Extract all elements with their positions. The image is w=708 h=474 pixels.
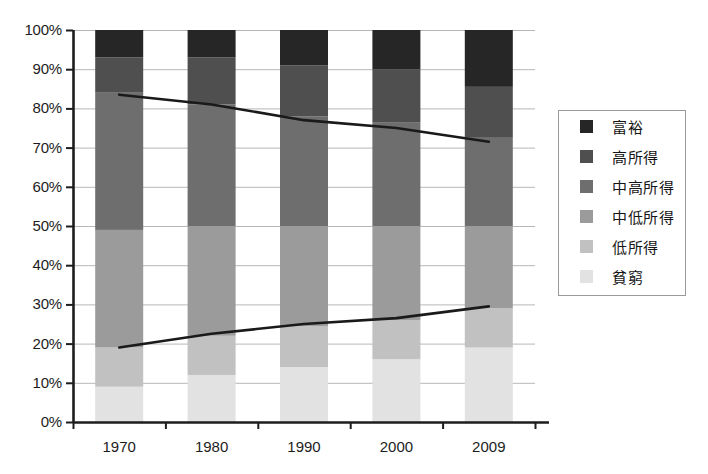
bar-segment-貧窮-2000 — [372, 359, 420, 422]
bar-segment-中低所得-2000 — [372, 226, 420, 320]
x-tick-label-1970: 1970 — [89, 439, 149, 454]
legend-item-label: 貧窮 — [612, 266, 643, 287]
bar-segment-貧窮-1980 — [188, 375, 236, 422]
bar-segment-中高所得-1980 — [188, 104, 236, 226]
bar-segment-中低所得-1970 — [95, 230, 143, 348]
legend-item-低所得[interactable]: 低所得 — [559, 231, 685, 261]
bar-segment-富裕-2000 — [372, 30, 420, 69]
legend-swatch-icon — [580, 180, 593, 193]
legend-item-label: 富裕 — [612, 116, 643, 137]
bar-segment-低所得-1990 — [280, 326, 328, 367]
bar-segment-富裕-1990 — [280, 30, 328, 65]
bar-segment-高所得-1980 — [188, 57, 236, 104]
bar-segment-低所得-2000 — [372, 320, 420, 359]
bar-segment-富裕-1970 — [95, 30, 143, 57]
bar-segment-中高所得-1970 — [95, 93, 143, 230]
x-tick-label-1990: 1990 — [274, 439, 334, 454]
bar-segment-富裕-2009 — [465, 30, 513, 87]
bar-segment-高所得-1970 — [95, 57, 143, 92]
bar-segment-高所得-1990 — [280, 65, 328, 116]
bar-segment-中高所得-2000 — [372, 122, 420, 226]
x-tick-label-2000: 2000 — [366, 439, 426, 454]
legend-swatch-icon — [580, 270, 593, 283]
bar-segment-中高所得-1990 — [280, 116, 328, 226]
legend-item-中低所得[interactable]: 中低所得 — [559, 201, 685, 231]
y-axis-ticks — [66, 31, 73, 423]
legend-item-label: 中低所得 — [612, 206, 674, 227]
legend-swatch-icon — [580, 120, 593, 133]
legend-item-富裕[interactable]: 富裕 — [559, 111, 685, 141]
bar-segment-貧窮-1990 — [280, 367, 328, 422]
legend-item-label: 中高所得 — [612, 176, 674, 197]
x-tick-label-1980: 1980 — [182, 439, 242, 454]
bar-segment-中高所得-2009 — [465, 138, 513, 226]
bar-segment-低所得-1980 — [188, 336, 236, 375]
bar-segment-低所得-1970 — [95, 348, 143, 387]
bar-segment-高所得-2009 — [465, 87, 513, 138]
legend-item-label: 低所得 — [612, 236, 659, 257]
legend-swatch-icon — [580, 150, 593, 163]
bar-segment-低所得-2009 — [465, 308, 513, 347]
bar-segment-中低所得-1990 — [280, 226, 328, 326]
bar-segment-富裕-1980 — [188, 30, 236, 57]
legend-item-高所得[interactable]: 高所得 — [559, 141, 685, 171]
bar-segment-貧窮-1970 — [95, 387, 143, 422]
stacked-bar-chart: 0%10%20%30%40%50%60%70%80%90%100% 197019… — [0, 0, 708, 474]
bar-segment-中低所得-1980 — [188, 226, 236, 336]
chart-legend: 富裕高所得中高所得中低所得低所得貧窮 — [558, 110, 686, 296]
legend-swatch-icon — [580, 240, 593, 253]
bar-segment-中低所得-2009 — [465, 226, 513, 308]
legend-item-label: 高所得 — [612, 146, 659, 167]
bar-segment-高所得-2000 — [372, 69, 420, 122]
legend-item-中高所得[interactable]: 中高所得 — [559, 171, 685, 201]
bar-segment-貧窮-2009 — [465, 348, 513, 422]
legend-item-貧窮[interactable]: 貧窮 — [559, 261, 685, 291]
legend-swatch-icon — [580, 210, 593, 223]
x-tick-label-2009: 2009 — [459, 439, 519, 454]
